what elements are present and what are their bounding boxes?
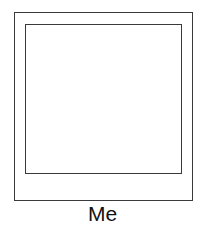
photo-caption: Me xyxy=(0,202,205,226)
photo-area xyxy=(25,24,182,174)
